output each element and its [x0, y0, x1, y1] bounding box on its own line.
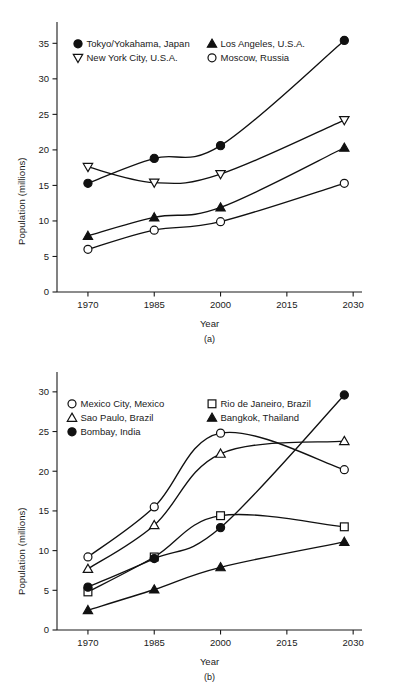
y-tick-label: 35	[38, 38, 49, 49]
legend-item[interactable]: Mexico City, Mexico	[68, 398, 164, 409]
series-sao-paulo-brazil	[83, 436, 349, 572]
legend-item[interactable]: Rio de Janeiro, Brazil	[208, 398, 311, 409]
legend-label: Moscow, Russia	[221, 52, 290, 63]
legend-label: Bangkok, Thailand	[221, 412, 300, 423]
chart-panel-a: 0510152025303519701985200020152030Tokyo/…	[0, 0, 419, 350]
marker-open-circle	[84, 245, 92, 253]
marker-open-circle	[84, 553, 92, 561]
marker-open-square	[217, 512, 225, 520]
x-tick-label: 1985	[144, 299, 165, 310]
legend-item[interactable]: Moscow, Russia	[208, 52, 290, 63]
legend-item[interactable]: Bangkok, Thailand	[207, 412, 299, 423]
x-axis-label-a: Year	[0, 318, 419, 329]
legend-item[interactable]: Tokyo/Yokahama, Japan	[74, 38, 190, 49]
y-tick-label: 0	[44, 286, 49, 297]
x-axis-label-b: Year	[0, 656, 419, 667]
x-tick-label: 2000	[210, 637, 231, 648]
y-tick-label: 20	[38, 466, 49, 477]
legend: Mexico City, MexicoRio de Janeiro, Brazi…	[67, 398, 310, 437]
y-tick-label: 10	[38, 545, 49, 556]
x-tick-label: 2030	[343, 299, 364, 310]
line-chart-a: 0510152025303519701985200020152030Tokyo/…	[0, 0, 419, 330]
marker-open-triangle-up	[340, 436, 349, 444]
y-tick-label: 15	[38, 505, 49, 516]
legend-marker	[207, 413, 216, 421]
legend-marker	[67, 413, 76, 421]
x-tick-label: 1970	[77, 299, 98, 310]
legend-marker	[74, 40, 82, 48]
legend-marker	[73, 54, 82, 62]
y-tick-label: 30	[38, 386, 49, 397]
series-bangkok-thailand	[83, 537, 349, 613]
series-line	[88, 120, 344, 183]
marker-filled-circle	[150, 154, 158, 162]
y-tick-label: 25	[38, 426, 49, 437]
marker-open-triangle-up	[216, 449, 225, 457]
series-los-angeles-u-s-a	[83, 143, 349, 239]
legend-label: Los Angeles, U.S.A.	[221, 38, 306, 49]
marker-filled-triangle-up	[340, 537, 349, 545]
marker-open-circle	[340, 466, 348, 474]
marker-filled-circle	[340, 36, 348, 44]
marker-filled-circle	[84, 583, 92, 591]
marker-filled-circle	[216, 142, 224, 150]
legend-marker	[68, 428, 76, 436]
marker-open-circle	[217, 218, 225, 226]
subcaption-b: (b)	[0, 672, 419, 682]
legend-marker	[68, 400, 76, 408]
legend-label: Mexico City, Mexico	[81, 398, 165, 409]
marker-open-triangle-up	[83, 564, 92, 572]
y-axis-label-a: Population (millions)	[16, 157, 27, 245]
y-tick-label: 15	[38, 180, 49, 191]
x-tick-label: 1970	[77, 637, 98, 648]
marker-open-triangle-down	[340, 117, 349, 125]
series-line	[88, 514, 344, 591]
marker-filled-circle	[150, 554, 158, 562]
population-growth-figure: 0510152025303519701985200020152030Tokyo/…	[0, 0, 419, 699]
series-new-york-city-u-s-a	[83, 117, 349, 188]
legend-item[interactable]: Los Angeles, U.S.A.	[207, 38, 305, 49]
y-tick-label: 25	[38, 109, 49, 120]
marker-open-circle	[340, 179, 348, 187]
legend-item[interactable]: Bombay, India	[68, 426, 141, 437]
y-tick-label: 5	[44, 251, 49, 262]
series-line	[88, 395, 344, 587]
series-line	[88, 542, 344, 610]
legend-marker	[208, 400, 216, 408]
legend-item[interactable]: New York City, U.S.A.	[73, 52, 177, 63]
x-tick-label: 1985	[144, 637, 165, 648]
legend-label: New York City, U.S.A.	[87, 52, 178, 63]
legend-item[interactable]: Sao Paulo, Brazil	[67, 412, 153, 423]
marker-open-circle	[150, 226, 158, 234]
marker-filled-circle	[216, 523, 224, 531]
legend-marker	[208, 54, 216, 62]
series-line	[88, 183, 344, 249]
marker-filled-circle	[340, 391, 348, 399]
marker-filled-circle	[84, 179, 92, 187]
x-tick-label: 2000	[210, 299, 231, 310]
line-chart-b: 05101520253019701985200020152030Mexico C…	[0, 350, 419, 668]
marker-open-square	[340, 523, 348, 531]
legend-label: Bombay, India	[81, 426, 142, 437]
marker-open-circle	[150, 503, 158, 511]
chart-panel-b: 05101520253019701985200020152030Mexico C…	[0, 350, 419, 699]
y-tick-label: 5	[44, 585, 49, 596]
y-axis-label-b: Population (millions)	[16, 507, 27, 595]
legend-marker	[207, 39, 216, 47]
x-tick-label: 2030	[343, 637, 364, 648]
legend-label: Rio de Janeiro, Brazil	[221, 398, 311, 409]
legend-label: Sao Paulo, Brazil	[81, 412, 154, 423]
x-tick-label: 2015	[276, 637, 297, 648]
legend: Tokyo/Yokahama, JapanLos Angeles, U.S.A.…	[73, 38, 305, 63]
series-rio-de-janeiro-brazil	[84, 512, 348, 596]
legend-label: Tokyo/Yokahama, Japan	[87, 38, 190, 49]
y-tick-label: 30	[38, 73, 49, 84]
marker-filled-triangle-up	[340, 143, 349, 151]
x-tick-label: 2015	[276, 299, 297, 310]
series-line	[88, 432, 344, 557]
y-tick-label: 0	[44, 624, 49, 635]
marker-open-circle	[217, 429, 225, 437]
y-tick-label: 20	[38, 144, 49, 155]
y-tick-label: 10	[38, 215, 49, 226]
series-mexico-city-mexico	[84, 429, 348, 561]
